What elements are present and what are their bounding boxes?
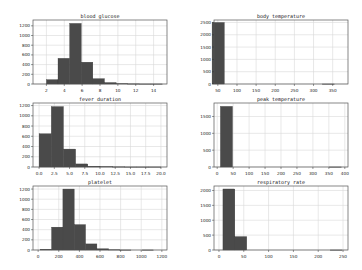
y-tick-label: 800 <box>22 124 30 129</box>
x-tick-label: 50 <box>230 171 236 176</box>
histogram-bar <box>63 189 74 250</box>
x-tick-label: 200 <box>314 254 322 259</box>
y-tick-label: 600 <box>22 134 30 139</box>
histogram-bar <box>220 106 232 167</box>
histogram-bar <box>86 244 97 250</box>
x-tick-label: 2.5 <box>51 171 58 176</box>
histogram-bar <box>51 107 63 167</box>
x-tick-label: 400 <box>75 254 83 259</box>
y-tick-label: 200 <box>22 154 30 159</box>
subplot-peak-temperature: 050100150200250300350400050010001500peak… <box>200 96 349 176</box>
histogram-bar <box>58 58 70 84</box>
x-tick-label: 14 <box>151 88 157 93</box>
y-tick-label: 400 <box>22 227 30 232</box>
y-tick-label: 800 <box>22 207 30 212</box>
x-tick-label: 1200 <box>157 254 168 259</box>
histogram-bar <box>223 189 235 250</box>
y-tick-label: 500 <box>203 148 211 153</box>
x-tick-label: 12.5 <box>111 171 121 176</box>
subplot-respiratory-rate: 0501001502002500500100015002000respirato… <box>200 179 348 259</box>
x-tick-label: 12 <box>133 88 139 93</box>
subplot-title: peak temperature <box>257 96 305 103</box>
y-tick-label: 1000 <box>19 33 30 38</box>
y-tick-label: 600 <box>22 52 30 57</box>
histogram-grid-figure: 2468101214020040060080010001200blood glu… <box>0 0 362 270</box>
subplot-title: platelet <box>88 179 112 186</box>
y-tick-label: 0 <box>208 165 211 170</box>
histogram-bar <box>76 164 88 167</box>
x-tick-label: 150 <box>289 254 297 259</box>
x-tick-label: 0 <box>37 254 40 259</box>
subplot-title: respiratory rate <box>257 179 305 186</box>
y-tick-label: 0 <box>27 82 30 87</box>
subplot-blood-glucose: 2468101214020040060080010001200blood glu… <box>19 13 167 93</box>
x-tick-label: 800 <box>117 254 125 259</box>
histogram-bar <box>81 62 93 84</box>
y-tick-label: 1000 <box>200 131 211 136</box>
x-tick-label: 7.5 <box>81 171 88 176</box>
y-tick-label: 1200 <box>19 23 30 28</box>
x-tick-label: 5.0 <box>66 171 73 176</box>
x-tick-label: 15.0 <box>126 171 136 176</box>
x-tick-label: 8 <box>99 88 102 93</box>
y-tick-label: 0 <box>208 82 211 87</box>
x-tick-label: 400 <box>341 171 349 176</box>
y-tick-label: 1500 <box>200 45 211 50</box>
y-tick-label: 1000 <box>200 218 211 223</box>
y-tick-label: 600 <box>22 217 30 222</box>
x-tick-label: 100 <box>233 88 241 93</box>
y-tick-label: 500 <box>203 69 211 74</box>
x-tick-label: 300 <box>309 171 317 176</box>
x-tick-label: 100 <box>245 171 253 176</box>
histogram-bar <box>63 149 75 167</box>
histogram-bar <box>74 225 85 250</box>
x-tick-label: 250 <box>339 254 347 259</box>
y-tick-label: 1000 <box>200 57 211 62</box>
y-tick-label: 2500 <box>200 20 211 25</box>
x-tick-label: 4 <box>63 88 66 93</box>
histogram-bar <box>70 23 82 84</box>
histogram-bar <box>93 79 105 84</box>
subplot-fever-duration: 0.02.55.07.510.012.515.017.520.002004006… <box>19 96 167 176</box>
histogram-bar <box>46 80 58 84</box>
x-tick-label: 350 <box>329 88 337 93</box>
x-tick-label: 200 <box>55 254 63 259</box>
y-tick-label: 1000 <box>19 113 30 118</box>
y-tick-label: 400 <box>22 62 30 67</box>
x-tick-label: 300 <box>310 88 318 93</box>
y-tick-label: 1200 <box>19 187 30 192</box>
y-tick-label: 2000 <box>200 32 211 37</box>
x-tick-label: 1000 <box>136 254 147 259</box>
subplot-body-temperature: 5010015020025030035005001000150020002500… <box>200 13 348 93</box>
x-tick-label: 17.5 <box>141 171 151 176</box>
x-tick-label: 20.0 <box>156 171 166 176</box>
y-tick-label: 1500 <box>200 203 211 208</box>
y-tick-label: 200 <box>22 72 30 77</box>
y-tick-label: 0 <box>27 248 30 253</box>
histogram-bar <box>39 134 51 167</box>
x-tick-label: 200 <box>277 171 285 176</box>
subplot-title: fever duration <box>79 96 121 102</box>
x-tick-label: 250 <box>290 88 298 93</box>
x-tick-label: 2 <box>45 88 48 93</box>
x-tick-label: 10 <box>115 88 121 93</box>
subplot-platelet: 0200400600800100012000200400600800100012… <box>19 179 167 259</box>
y-tick-label: 1000 <box>19 197 30 202</box>
x-tick-label: 0.0 <box>36 171 43 176</box>
x-tick-label: 150 <box>261 171 269 176</box>
y-tick-label: 800 <box>22 43 30 48</box>
x-tick-label: 600 <box>96 254 104 259</box>
y-tick-label: 1200 <box>19 103 30 108</box>
x-tick-label: 50 <box>241 254 247 259</box>
x-tick-label: 0 <box>216 171 219 176</box>
y-tick-label: 2000 <box>200 188 211 193</box>
x-tick-label: 50 <box>215 88 221 93</box>
subplot-title: blood glucose <box>80 13 119 20</box>
histogram-bar <box>52 227 63 250</box>
x-tick-label: 350 <box>325 171 333 176</box>
y-tick-label: 400 <box>22 144 30 149</box>
y-tick-label: 0 <box>208 248 211 253</box>
y-tick-label: 1500 <box>200 114 211 119</box>
x-tick-label: 100 <box>265 254 273 259</box>
subplot-title: body temperature <box>257 13 305 20</box>
